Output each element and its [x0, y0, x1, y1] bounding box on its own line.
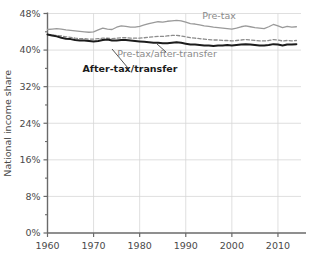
- y-tick-label-32%: 32%: [19, 81, 40, 92]
- x-axis-ticks: 196019701980199020002010: [35, 233, 290, 251]
- y-axis-title: National income share: [2, 70, 13, 177]
- x-tick-label-1990: 1990: [174, 240, 198, 251]
- line-chart: 0%8%16%24%32%40%48% 19601970198019902000…: [0, 0, 315, 262]
- data-series: [48, 20, 297, 46]
- pre-tax-after-transfer-annotation: Pre-tax/after-transfer: [117, 48, 217, 59]
- x-tick-label-1960: 1960: [35, 240, 59, 251]
- y-tick-label-40%: 40%: [19, 44, 40, 55]
- y-tick-label-0%: 0%: [25, 227, 40, 238]
- x-tick-label-1980: 1980: [128, 240, 152, 251]
- y-tick-label-16%: 16%: [19, 154, 40, 165]
- x-tick-label-2000: 2000: [220, 240, 244, 251]
- after-tax-transfer-annotation: After-tax/transfer: [83, 63, 178, 74]
- chart-figure: 0%8%16%24%32%40%48% 19601970198019902000…: [0, 0, 315, 262]
- y-tick-label-24%: 24%: [19, 118, 40, 129]
- y-tick-label-8%: 8%: [25, 191, 40, 202]
- x-tick-label-2010: 2010: [266, 240, 290, 251]
- x-tick-label-1970: 1970: [81, 240, 105, 251]
- y-tick-label-48%: 48%: [19, 8, 40, 19]
- series-line-pre-tax: [48, 20, 297, 32]
- pre-tax-annotation: Pre-tax: [202, 10, 236, 21]
- y-axis-title-text: National income share: [2, 70, 13, 177]
- y-axis-ticks: 0%8%16%24%32%40%48%: [19, 8, 47, 239]
